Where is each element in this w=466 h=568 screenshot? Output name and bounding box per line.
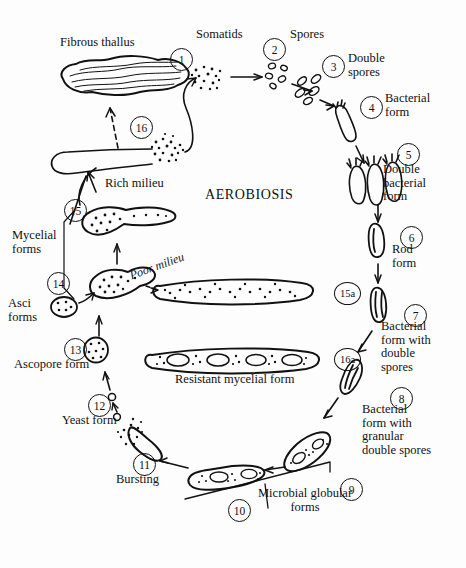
diagram-canvas: AEROBIOSIS Fibrous thallus Rich milieu P… bbox=[0, 0, 466, 568]
arrow-3-to-4 bbox=[320, 100, 334, 110]
stage6-rod-form bbox=[369, 224, 385, 257]
arrow-10-to-11 bbox=[160, 458, 188, 468]
stage-label-8: Bacterial form with granular double spor… bbox=[362, 403, 431, 457]
stage-label-4: Bacterial form bbox=[385, 92, 430, 119]
stage-label-15: Mycelial forms bbox=[12, 229, 56, 256]
stage2-spores bbox=[265, 62, 288, 89]
stage14-asci-dots bbox=[57, 301, 73, 312]
arrow-7-to-8 bbox=[358, 331, 372, 352]
rich-milieu-label: Rich milieu bbox=[105, 177, 164, 191]
stage-number-14: 14 bbox=[47, 272, 70, 295]
arrow-8-to-9 bbox=[324, 398, 338, 418]
stage-label-6: Rod form bbox=[392, 243, 416, 270]
stage15a-dots bbox=[164, 283, 296, 299]
stage-number-15: 15 bbox=[64, 199, 87, 222]
stage-label-10: Microbial globular forms bbox=[258, 487, 352, 514]
stage-label-2: Spores bbox=[290, 28, 324, 42]
stage-label-12: Yeast form bbox=[62, 414, 117, 428]
stage-number-3: 3 bbox=[322, 55, 345, 78]
stage16-shape bbox=[52, 149, 152, 174]
stage15-dots bbox=[91, 213, 167, 233]
stage-number-1: 1 bbox=[170, 48, 193, 71]
stage7-bacterial-double-spores bbox=[371, 288, 387, 322]
stage-label-11: Bursting bbox=[116, 473, 159, 487]
arrow-9-to-10 bbox=[265, 467, 285, 473]
arrow-richmilieu-to-club bbox=[87, 172, 96, 192]
arrow-5-to-6 bbox=[375, 205, 381, 222]
stage-label-13: Ascopore form bbox=[14, 358, 89, 372]
stage16-somatid-dots bbox=[151, 133, 184, 162]
stage14-asci-form bbox=[51, 297, 77, 317]
stage-number-16: 16 bbox=[130, 116, 153, 139]
stage-label-7: Bacterial form with double spores bbox=[381, 320, 431, 374]
stage16a-form bbox=[145, 348, 319, 373]
stage10-globular-form bbox=[188, 466, 264, 490]
arrow-12-to-13 bbox=[103, 372, 110, 390]
stage4-bacterial-form bbox=[333, 100, 356, 141]
arrow-12 bbox=[112, 403, 118, 412]
stage-number-4: 4 bbox=[360, 96, 383, 119]
arrow-6-to-7 bbox=[375, 264, 381, 283]
arrow-13-to-14 bbox=[96, 316, 102, 336]
stage-number-10: 10 bbox=[228, 499, 251, 522]
stage-label-3: Double spores bbox=[348, 52, 385, 79]
stage-number-2: 2 bbox=[263, 38, 286, 61]
aerobiosis-title: AEROBIOSIS bbox=[205, 187, 293, 203]
arrow-14-to-mycelium bbox=[79, 293, 94, 303]
arrow-16-to-thallus bbox=[106, 108, 118, 148]
stage-number-16a: 16a bbox=[334, 348, 361, 371]
arrow-1-to-2 bbox=[231, 74, 262, 80]
fibrous-thallus-label: Fibrous thallus bbox=[60, 36, 135, 50]
arrow-mycelium-up bbox=[114, 244, 120, 264]
stage-label-14: Asci forms bbox=[8, 297, 37, 324]
arrow-16-to-1 bbox=[184, 78, 196, 152]
stage9-globular-form bbox=[284, 432, 330, 471]
stage9-granules bbox=[290, 439, 328, 464]
stage-label-1: Somatids bbox=[196, 28, 243, 42]
stage-number-15a: 15a bbox=[334, 282, 361, 305]
stage-label-16a: Resistant mycelial form bbox=[175, 373, 294, 387]
stage13-spore-dots bbox=[88, 342, 105, 360]
stage-label-5: Double bacterial form bbox=[383, 163, 426, 204]
